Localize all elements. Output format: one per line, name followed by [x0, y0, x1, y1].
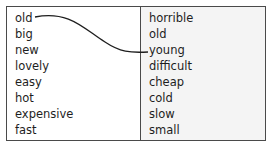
left-word[interactable]: expensive — [15, 106, 140, 122]
right-word[interactable]: difficult — [149, 58, 265, 74]
left-word[interactable]: fast — [15, 122, 140, 138]
right-word[interactable]: old — [149, 26, 265, 42]
left-word[interactable]: new — [15, 42, 140, 58]
right-word[interactable]: slow — [149, 106, 265, 122]
left-word[interactable]: hot — [15, 90, 140, 106]
left-word[interactable]: easy — [15, 74, 140, 90]
right-word[interactable]: young — [149, 42, 265, 58]
right-word[interactable]: cold — [149, 90, 265, 106]
left-word[interactable]: lovely — [15, 58, 140, 74]
right-word[interactable]: cheap — [149, 74, 265, 90]
right-word-column: horrible old young difficult cheap cold … — [141, 7, 265, 140]
right-word[interactable]: small — [149, 122, 265, 138]
word-matching-table: old big new lovely easy hot expensive fa… — [6, 6, 266, 141]
left-word[interactable]: old — [15, 10, 140, 26]
left-word-column: old big new lovely easy hot expensive fa… — [7, 7, 141, 140]
left-word[interactable]: big — [15, 26, 140, 42]
right-word[interactable]: horrible — [149, 10, 265, 26]
